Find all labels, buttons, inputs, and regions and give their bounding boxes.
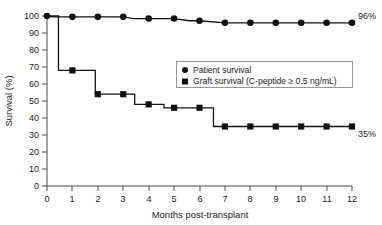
x-axis-title: Months post-transplant xyxy=(152,209,249,220)
x-tick-label: 9 xyxy=(273,194,278,204)
x-tick-label: 2 xyxy=(95,194,100,204)
legend-label-graft-survival: Graft survival (C-peptide ≥ 0.5 ng/mL) xyxy=(193,76,337,86)
patient-survival-marker xyxy=(44,13,51,20)
y-tick-label: 100 xyxy=(24,11,39,21)
y-axis-title: Survival (%) xyxy=(3,75,14,126)
y-tick-label: 90 xyxy=(29,28,39,38)
legend: Patient survival Graft survival (C-pepti… xyxy=(177,62,353,88)
x-tick-label: 5 xyxy=(171,194,176,204)
y-tick-label: 30 xyxy=(29,130,39,140)
patient-survival-end-label: 96% xyxy=(358,11,376,21)
patient-survival-marker xyxy=(145,15,152,22)
y-tick-label: 20 xyxy=(29,147,39,157)
kaplan-meier-chart: 0 10 20 30 40 50 60 70 80 90 100 xyxy=(0,0,382,225)
patient-survival-marker xyxy=(196,17,203,24)
legend-label-patient-survival: Patient survival xyxy=(193,65,251,75)
x-axis-ticks xyxy=(47,186,352,191)
patient-survival-markers xyxy=(44,13,356,26)
survival-curve-figure: 0 10 20 30 40 50 60 70 80 90 100 xyxy=(0,0,382,225)
x-tick-label: 1 xyxy=(69,194,74,204)
patient-survival-marker xyxy=(272,20,279,27)
y-tick-label: 40 xyxy=(29,113,39,123)
x-tick-label: 10 xyxy=(296,194,306,204)
graft-survival-marker xyxy=(196,105,202,111)
x-tick-label: 6 xyxy=(197,194,202,204)
x-tick-label: 12 xyxy=(347,194,357,204)
graft-survival-marker xyxy=(298,123,304,129)
y-axis-ticks xyxy=(42,16,47,186)
y-tick-label: 50 xyxy=(29,96,39,106)
graft-survival-marker xyxy=(95,91,101,97)
y-tick-label: 70 xyxy=(29,62,39,72)
patient-survival-marker xyxy=(247,20,254,27)
patient-survival-marker xyxy=(69,14,76,21)
y-axis-tick-labels: 0 10 20 30 40 50 60 70 80 90 100 xyxy=(24,11,39,191)
patient-survival-marker xyxy=(95,14,102,21)
y-tick-label: 10 xyxy=(29,164,39,174)
patient-survival-marker xyxy=(323,20,330,27)
x-tick-label: 3 xyxy=(120,194,125,204)
y-tick-label: 60 xyxy=(29,79,39,89)
graft-survival-marker xyxy=(120,91,126,97)
x-tick-label: 11 xyxy=(322,194,331,204)
graft-survival-end-label: 35% xyxy=(358,129,376,139)
graft-survival-marker xyxy=(222,123,228,129)
x-tick-label: 0 xyxy=(44,194,49,204)
graft-survival-marker xyxy=(171,105,177,111)
graft-survival-marker xyxy=(323,123,329,129)
graft-survival-marker xyxy=(146,101,152,107)
patient-survival-marker xyxy=(349,20,356,27)
graft-survival-marker xyxy=(273,123,279,129)
legend-marker-square-icon xyxy=(182,79,188,85)
x-tick-label: 8 xyxy=(247,194,252,204)
graft-survival-marker xyxy=(247,123,253,129)
y-tick-label: 0 xyxy=(34,181,39,191)
graft-survival-marker xyxy=(69,67,75,73)
legend-marker-circle-icon xyxy=(182,67,188,73)
patient-survival-marker xyxy=(171,15,178,22)
graft-survival-marker xyxy=(349,123,355,129)
x-tick-label: 7 xyxy=(222,194,227,204)
x-tick-label: 4 xyxy=(146,194,151,204)
y-tick-label: 80 xyxy=(29,45,39,55)
patient-survival-marker xyxy=(298,20,305,27)
x-axis-tick-labels: 0 1 2 3 4 5 6 7 8 9 10 11 12 xyxy=(44,194,357,204)
patient-survival-marker xyxy=(120,14,127,21)
patient-survival-marker xyxy=(222,20,229,27)
